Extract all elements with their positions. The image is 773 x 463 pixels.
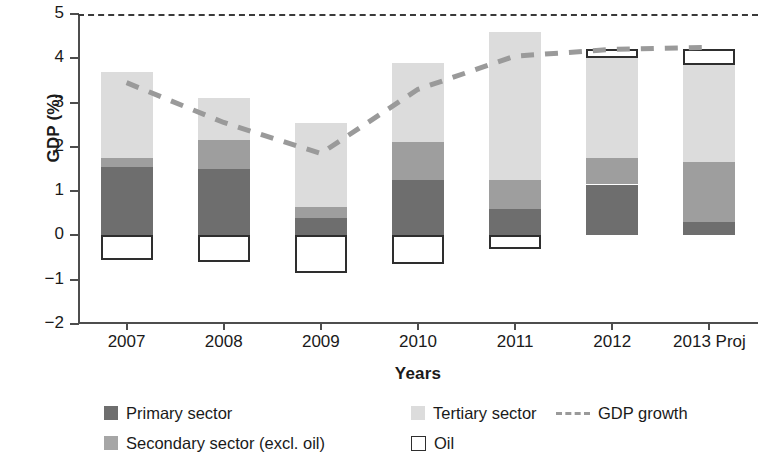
bar-segment-primary — [489, 209, 541, 236]
bar-segment-tertiary — [586, 58, 638, 158]
bar-segment-tertiary — [101, 72, 153, 158]
bar-segment-primary — [101, 167, 153, 236]
y-tick-label: 3 — [55, 92, 64, 111]
tertiary-sector-swatch-icon — [411, 406, 425, 420]
legend-label-tertiary-sector: Tertiary sector — [433, 404, 537, 423]
x-tick-label: 2012 — [564, 332, 661, 352]
plot-area: 543210−1−2 — [78, 14, 758, 324]
bar-segment-secondary — [101, 158, 153, 167]
y-axis-title: GDP (%) — [44, 68, 64, 188]
bar-segment-secondary — [198, 140, 250, 169]
bar-segment-tertiary — [392, 63, 444, 143]
y-tick-label: 5 — [55, 3, 64, 22]
stacked-bar[interactable] — [392, 14, 444, 324]
bar-segment-primary — [198, 169, 250, 235]
bar-segment-secondary — [392, 142, 444, 180]
chart-legend: Primary sector Tertiary sector GDP growt… — [104, 398, 764, 458]
legend-label-primary-sector: Primary sector — [126, 404, 232, 423]
y-tick-label: 1 — [55, 180, 64, 199]
legend-item-tertiary-sector: Tertiary sector — [411, 398, 537, 428]
legend-item-primary-sector: Primary sector — [104, 398, 232, 428]
y-tick-label: −1 — [45, 269, 64, 288]
stacked-bar[interactable] — [295, 14, 347, 324]
bar-segment-tertiary — [683, 65, 735, 162]
legend-label-secondary-sector: Secondary sector (excl. oil) — [126, 434, 325, 453]
legend-label-gdp-growth: GDP growth — [598, 404, 688, 423]
x-tick-label: 2009 — [272, 332, 369, 352]
y-tick: −2 — [70, 323, 79, 325]
bar-segment-primary — [295, 218, 347, 236]
bar-segment-primary — [683, 222, 735, 235]
x-tick-label-group: 2007200820092010201120122013 Proj — [78, 332, 758, 360]
bar-segment-tertiary — [198, 98, 250, 140]
y-tick-label: −2 — [45, 313, 64, 332]
bar-segment-oil — [101, 235, 153, 259]
y-tick: −1 — [70, 279, 79, 281]
x-tick-label: 2007 — [78, 332, 175, 352]
y-tick-label: 4 — [55, 47, 64, 66]
stacked-bar[interactable] — [198, 14, 250, 324]
bar-segment-tertiary — [489, 32, 541, 180]
legend-item-gdp-growth: GDP growth — [556, 398, 688, 428]
y-axis-line — [78, 14, 80, 324]
legend-item-oil: Oil — [411, 428, 454, 458]
stacked-bar[interactable] — [683, 14, 735, 324]
bar-segment-oil — [392, 235, 444, 264]
bar-segment-oil — [295, 235, 347, 273]
legend-item-secondary-sector: Secondary sector (excl. oil) — [104, 428, 325, 458]
y-tick: 0 — [70, 234, 79, 236]
stacked-bar[interactable] — [586, 14, 638, 324]
y-tick: 4 — [70, 57, 79, 59]
bar-segment-oil — [586, 49, 638, 58]
bar-segment-primary — [586, 185, 638, 236]
x-tick-label: 2011 — [467, 332, 564, 352]
bar-segment-secondary — [295, 207, 347, 218]
y-tick-label: 0 — [55, 224, 64, 243]
stacked-bar[interactable] — [489, 14, 541, 324]
chart-figure: GDP (%) 543210−1−2 200720082009201020112… — [0, 0, 773, 463]
legend-row-2: Secondary sector (excl. oil) Oil — [104, 428, 764, 458]
x-tick-label: 2013 Proj — [661, 332, 758, 352]
primary-sector-swatch-icon — [104, 406, 118, 420]
stacked-bar[interactable] — [101, 14, 153, 324]
bar-segment-oil — [683, 49, 735, 65]
oil-swatch-icon — [411, 436, 426, 451]
bar-segment-secondary — [586, 158, 638, 185]
legend-row-1: Primary sector Tertiary sector GDP growt… — [104, 398, 764, 428]
bar-segment-primary — [392, 180, 444, 235]
bar-segment-secondary — [683, 162, 735, 222]
x-tick-label: 2010 — [369, 332, 466, 352]
y-tick: 2 — [70, 146, 79, 148]
x-tick-label: 2008 — [175, 332, 272, 352]
x-axis-title: Years — [78, 364, 758, 384]
bar-segment-oil — [198, 235, 250, 262]
legend-label-oil: Oil — [434, 434, 454, 453]
y-tick: 3 — [70, 102, 79, 104]
y-tick-label: 2 — [55, 136, 64, 155]
secondary-sector-swatch-icon — [104, 436, 118, 450]
dashed-line-swatch-icon — [556, 412, 590, 415]
bar-segment-tertiary — [295, 123, 347, 207]
bar-segment-secondary — [489, 180, 541, 209]
bar-segment-oil — [489, 235, 541, 248]
y-tick: 1 — [70, 190, 79, 192]
